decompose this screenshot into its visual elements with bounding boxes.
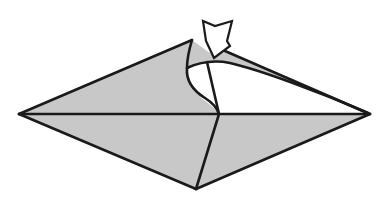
- lower-face: [19, 114, 370, 189]
- diagram-canvas: [0, 0, 390, 207]
- origami-diagram: kite / diamond base with top flap being …: [0, 0, 390, 207]
